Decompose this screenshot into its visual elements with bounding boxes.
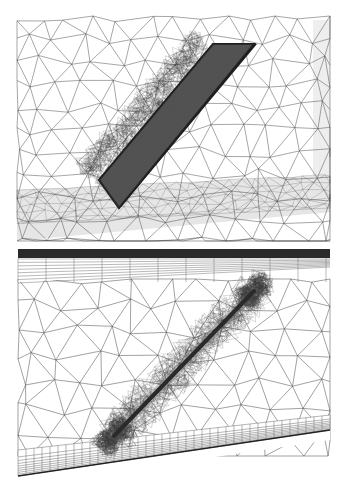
plate-cross-section	[114, 291, 254, 436]
mesh-figure-2d	[0, 243, 347, 487]
mesh-panel-bottom: 2D cross-section mesh view	[0, 243, 347, 487]
mesh-figure-3d	[0, 0, 347, 243]
mesh-panel-top: 3D surface mesh view	[0, 0, 347, 243]
top-boundary-layer	[18, 249, 330, 258]
